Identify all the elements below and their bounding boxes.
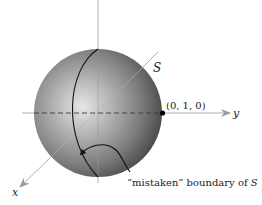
x-axis-label: x [12, 186, 19, 199]
sphere-diagram: S (0, 1, 0) y x “mistaken” boundary of S [0, 0, 262, 205]
boundary-caption-symbol: S [251, 177, 258, 188]
x-axis [20, 155, 53, 187]
point-0-1-0 [160, 110, 165, 115]
surface-label-S: S [153, 61, 161, 75]
boundary-caption-text: “mistaken” boundary of [127, 177, 251, 188]
point-label: (0, 1, 0) [166, 100, 206, 111]
boundary-caption: “mistaken” boundary of S [127, 177, 258, 188]
y-axis-label: y [232, 107, 240, 120]
